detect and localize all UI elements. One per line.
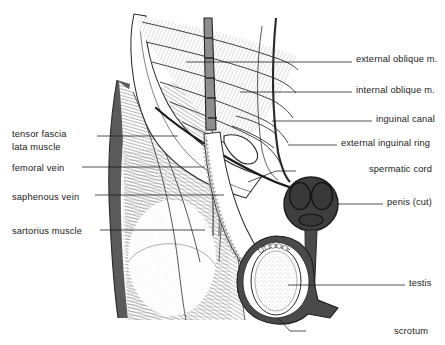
label-penis-cut: penis (cut) — [387, 196, 432, 209]
label-text: sartorius muscle — [12, 225, 82, 238]
label-external-inguinal-ring: external inguinal ring — [341, 137, 430, 150]
label-text: penis (cut) — [387, 196, 432, 209]
label-text: inguinal canal — [376, 113, 435, 126]
label-text: femoral vein — [12, 162, 64, 175]
label-sartorius-muscle: sartorius muscle — [12, 225, 82, 238]
label-text: internal oblique m. — [356, 84, 435, 97]
label-text: lata muscle — [12, 141, 67, 154]
corpus-cavernosum-left — [290, 183, 311, 210]
label-testis: testis — [409, 277, 432, 290]
label-text: external oblique m. — [356, 53, 437, 66]
corpus-spongiosum — [299, 214, 323, 226]
label-spermatic-cord: spermatic cord — [369, 163, 432, 176]
label-text: scrotum — [394, 325, 428, 338]
label-saphenous-vein: saphenous vein — [12, 191, 79, 204]
label-text: testis — [409, 277, 432, 290]
label-internal-oblique-m: internal oblique m. — [356, 84, 435, 97]
label-femoral-vein: femoral vein — [12, 162, 64, 175]
label-text: tensor fascia — [12, 128, 67, 141]
label-text: spermatic cord — [369, 163, 432, 176]
testis — [251, 247, 301, 315]
corpus-cavernosum-right — [312, 183, 333, 210]
label-scrotum: scrotum — [394, 325, 428, 338]
label-text: external inguinal ring — [341, 137, 430, 150]
label-tensor-fascia-lata: tensor fascialata muscle — [12, 128, 67, 153]
label-external-oblique-m: external oblique m. — [356, 53, 437, 66]
label-inguinal-canal: inguinal canal — [376, 113, 435, 126]
anatomy-figure-page: tensor fascialata musclefemoral veinsaph… — [0, 0, 445, 345]
label-text: saphenous vein — [12, 191, 79, 204]
